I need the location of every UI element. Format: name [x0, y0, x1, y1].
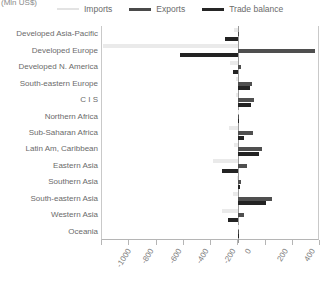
bar-group [102, 108, 318, 124]
bar-group [102, 224, 318, 240]
x-axis-tick-label: -400 [194, 247, 210, 265]
x-axis-tick-label: 0 [243, 247, 253, 256]
bar-imports [230, 61, 238, 65]
x-axis-tick [128, 240, 129, 245]
bar-trade-balance [238, 103, 251, 107]
category-label: South-eastern Europe [20, 79, 98, 88]
bar-group [102, 141, 318, 157]
x-axis-tick-label: 400 [302, 247, 317, 263]
category-label: Developed Asia-Pacific [16, 29, 98, 38]
bar-imports [234, 28, 238, 32]
legend-label: Trade balance [229, 4, 283, 14]
legend-item-exports[interactable]: Exports [129, 4, 185, 14]
bar-group [102, 174, 318, 190]
bar-trade-balance [238, 119, 239, 123]
plot-frame [101, 26, 319, 240]
bar-imports [238, 225, 239, 229]
bar-exports [238, 98, 254, 102]
bar-imports [229, 126, 239, 130]
x-axis-tick [210, 240, 211, 245]
bar-exports [238, 197, 271, 201]
bar-group [102, 207, 318, 223]
x-axis-tick [292, 240, 293, 245]
bar-group [102, 59, 318, 75]
bar-trade-balance [233, 70, 238, 74]
axis-unit-label: (Mln US$) [1, 0, 37, 7]
bar-imports [213, 159, 238, 163]
category-label: Eastern Asia [53, 161, 98, 170]
legend-swatch-exports-icon [129, 8, 151, 11]
x-axis-tick-label: -1000 [115, 247, 133, 269]
legend-swatch-imports-icon [57, 8, 79, 10]
x-axis-tick [156, 240, 157, 245]
bar-trade-balance [228, 218, 238, 222]
bar-trade-balance [238, 201, 266, 205]
bar-trade-balance [222, 169, 238, 173]
bar-exports [238, 82, 252, 86]
bar-trade-balance [238, 136, 244, 140]
bar-group [102, 42, 318, 58]
bar-imports [236, 77, 238, 81]
bar-trade-balance [238, 234, 239, 238]
bar-group [102, 75, 318, 91]
bar-exports [238, 180, 241, 184]
bar-group [102, 158, 318, 174]
legend-label: Imports [84, 4, 112, 14]
bar-group [102, 191, 318, 207]
bar-imports [222, 209, 238, 213]
category-label: Latin Am, Caribbean [26, 144, 99, 153]
category-label: Oceania [68, 227, 98, 236]
bar-imports [233, 192, 238, 196]
bar-exports [238, 115, 239, 119]
bar-imports [236, 93, 239, 97]
bar-group [102, 92, 318, 108]
bar-trade-balance [238, 185, 240, 189]
category-label: C I S [80, 95, 98, 104]
chart-legend: ImportsExportsTrade balance [57, 3, 300, 15]
category-label: South-eastern Asia [30, 194, 98, 203]
bar-imports [237, 176, 238, 180]
category-label: Southern Asia [48, 177, 98, 186]
bar-trade-balance [225, 37, 238, 41]
x-axis-tick-label: -800 [140, 247, 156, 265]
x-axis-tick [319, 240, 320, 245]
bar-imports [103, 44, 238, 48]
legend-item-imports[interactable]: Imports [57, 4, 112, 14]
x-axis-tick [237, 240, 238, 245]
bar-exports [238, 230, 239, 234]
category-label: Developed N. America [18, 62, 98, 71]
bar-exports [238, 147, 262, 151]
bar-trade-balance [238, 86, 250, 90]
legend-swatch-balance-icon [202, 8, 224, 11]
plot-area [102, 26, 318, 239]
bar-trade-balance [180, 53, 238, 57]
category-label: Sub-Saharan Africa [29, 128, 98, 137]
x-axis-tick [101, 240, 102, 245]
bar-exports [238, 32, 239, 36]
bar-exports [238, 65, 241, 69]
bar-exports [238, 49, 315, 53]
x-axis-tick-label: -200 [222, 247, 238, 265]
x-axis-tick-label: 200 [275, 247, 290, 263]
category-label: Northern Africa [45, 112, 98, 121]
bar-imports [234, 143, 238, 147]
legend-item-balance[interactable]: Trade balance [202, 4, 283, 14]
trade-balance-chart: (Mln US$) ImportsExportsTrade balance De… [0, 0, 321, 283]
category-label: Developed Europe [32, 46, 98, 55]
bar-exports [238, 213, 244, 217]
bar-trade-balance [238, 152, 258, 156]
bar-exports [238, 164, 247, 168]
legend-label: Exports [156, 4, 185, 14]
x-axis-tick-label: -600 [167, 247, 183, 265]
x-axis-tick [265, 240, 266, 245]
bar-imports [238, 110, 239, 114]
x-axis-tick [183, 240, 184, 245]
bar-exports [238, 131, 253, 135]
bar-group [102, 26, 318, 42]
x-axis: -1000-800-600-400-2000200400600 [101, 240, 319, 283]
category-label: Western Asia [51, 210, 98, 219]
bar-group [102, 125, 318, 141]
